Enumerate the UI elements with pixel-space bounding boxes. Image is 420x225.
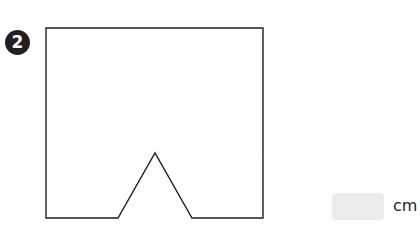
notched-square-figure	[0, 0, 420, 225]
unit-label: cm	[393, 195, 417, 217]
figure-outline	[46, 28, 263, 218]
answer-input[interactable]	[332, 193, 384, 220]
